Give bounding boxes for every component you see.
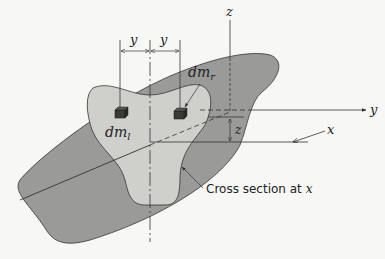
cross-section-caption: Cross section at x (206, 182, 313, 196)
cross-section-diagram: y y z y z x dml dmr Cross section at x (0, 0, 385, 259)
x-dim-arrow (293, 131, 325, 142)
y-axis-label: y (369, 102, 378, 117)
z-dim-label: z (234, 123, 242, 137)
y-dim-label-right: y (159, 32, 168, 47)
dm-left-label: dml (105, 124, 130, 142)
mass-element-right (174, 108, 187, 119)
z-axis-label: z (225, 4, 233, 19)
x-dim-label: x (327, 122, 335, 137)
y-dim-label-left: y (129, 32, 138, 47)
mass-element-left (115, 107, 128, 118)
